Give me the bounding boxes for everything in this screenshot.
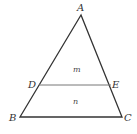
triangle-abc xyxy=(20,15,122,117)
region-n-label: n xyxy=(73,97,78,106)
triangle-diagram: A B C D E m n xyxy=(0,0,137,134)
label-a: A xyxy=(76,2,84,13)
region-m-label: m xyxy=(73,65,81,74)
label-c: C xyxy=(124,112,132,123)
label-b: B xyxy=(8,112,16,123)
label-d: D xyxy=(27,79,36,90)
label-e: E xyxy=(111,79,120,90)
